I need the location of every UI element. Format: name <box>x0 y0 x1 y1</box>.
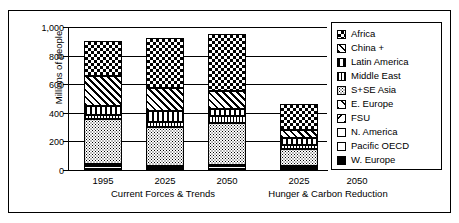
bar-segment <box>208 109 246 116</box>
legend-label: Africa <box>351 29 375 39</box>
legend-swatch-icon <box>337 142 346 151</box>
legend-label: W. Europe <box>351 155 395 165</box>
legend-swatch-icon <box>337 128 346 137</box>
y-axis-line <box>68 27 69 171</box>
y-axis-tick <box>63 27 68 28</box>
x-axis-tick-label: 2050 <box>346 175 367 186</box>
bar-segment <box>280 138 318 144</box>
bar-segment <box>84 115 122 119</box>
y-axis-tick <box>63 141 68 142</box>
bar-segment <box>208 166 246 169</box>
legend-item: E. Europe <box>337 97 438 111</box>
bar-segment <box>146 122 184 128</box>
bar-segment <box>280 145 318 149</box>
y-axis-tick <box>63 170 68 171</box>
y-axis-tick-labels: 02004006008001,000 <box>26 27 64 171</box>
y-axis-tick-label: 400 <box>49 109 64 119</box>
legend-label: E. Europe <box>351 99 393 109</box>
bar-segment <box>146 88 184 111</box>
y-axis-tick <box>63 84 68 85</box>
bar-segment <box>84 166 122 169</box>
x-axis-tick-label: 1995 <box>92 175 113 186</box>
legend-swatch-icon <box>337 72 346 81</box>
y-axis-tick-label: 1,000 <box>41 23 64 33</box>
legend-swatch-icon <box>337 58 346 67</box>
bar-segment <box>84 41 122 76</box>
legend-label: Middle East <box>351 71 401 81</box>
chart-legend: AfricaChina +Latin AmericaMiddle EastS+S… <box>331 22 442 170</box>
x-axis-group-label: Hunger & Carbon Reduction <box>268 188 387 199</box>
x-axis-tick-label: 2025 <box>288 175 309 186</box>
y-axis-tick-label: 800 <box>49 52 64 62</box>
y-axis-tick-label: 200 <box>49 137 64 147</box>
chart-figure: Millions of people 02004006008001,000 Af… <box>0 0 459 223</box>
legend-swatch-icon <box>337 100 346 109</box>
stacked-bar <box>208 27 246 170</box>
legend-item: N. America <box>337 125 438 139</box>
legend-label: N. America <box>351 127 397 137</box>
y-axis-tick-label: 0 <box>59 166 64 176</box>
bar-segment <box>146 111 184 122</box>
y-axis-tick <box>63 56 68 57</box>
x-axis-tick-label: 2025 <box>154 175 175 186</box>
bar-segment <box>146 127 184 166</box>
stacked-bar <box>84 27 122 170</box>
x-axis-line <box>68 170 328 171</box>
bar-segment <box>84 76 122 105</box>
legend-label: S+SE Asia <box>351 85 396 95</box>
bar-segment <box>84 119 122 165</box>
y-axis-tick <box>63 113 68 114</box>
legend-swatch-icon <box>337 44 346 53</box>
legend-item: W. Europe <box>337 153 438 167</box>
bar-segment <box>208 91 246 109</box>
legend-item: Middle East <box>337 69 438 83</box>
x-axis-tick-label: 2050 <box>216 175 237 186</box>
legend-item: Africa <box>337 27 438 41</box>
legend-label: Pacific OECD <box>351 141 409 151</box>
legend-item: S+SE Asia <box>337 83 438 97</box>
legend-label: FSU <box>351 113 370 123</box>
bar-segment <box>280 104 318 129</box>
bar-segment <box>208 116 246 122</box>
bar-segment <box>208 123 246 165</box>
bar-segment <box>84 106 122 115</box>
stacked-bar <box>146 27 184 170</box>
bar-segment <box>146 38 184 88</box>
legend-item: Latin America <box>337 55 438 69</box>
legend-swatch-icon <box>337 86 346 95</box>
legend-item: China + <box>337 41 438 55</box>
stacked-bar <box>280 27 318 170</box>
legend-swatch-icon <box>337 114 346 123</box>
legend-swatch-icon <box>337 156 346 165</box>
x-axis-group-label: Current Forces & Trends <box>111 188 215 199</box>
legend-label: China + <box>351 43 384 53</box>
bar-segment <box>280 149 318 166</box>
legend-label: Latin America <box>351 57 409 67</box>
legend-item: Pacific OECD <box>337 139 438 153</box>
legend-swatch-icon <box>337 30 346 39</box>
plot-area <box>68 27 327 170</box>
bar-segment <box>208 34 246 91</box>
legend-item: FSU <box>337 111 438 125</box>
bar-segment <box>280 130 318 139</box>
y-axis-tick-label: 600 <box>49 80 64 90</box>
